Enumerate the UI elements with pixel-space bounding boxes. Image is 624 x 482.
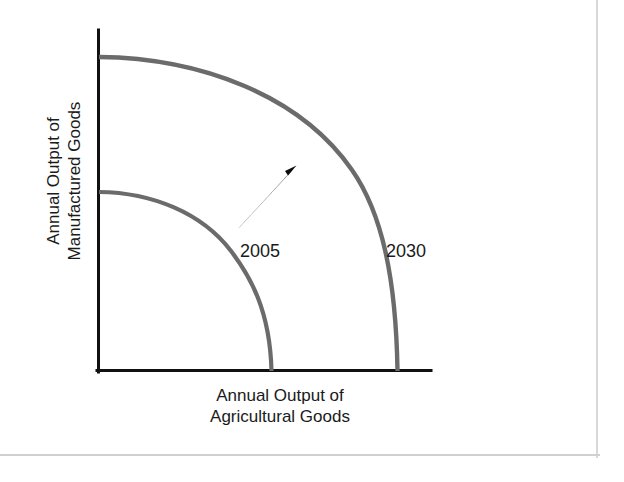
growth-arrow-head <box>285 166 297 176</box>
curve-label-2030: 2030 <box>386 241 426 262</box>
scanned-page-frame: Annual Output of Manufactured Goods Annu… <box>0 0 624 482</box>
y-axis-title-line2: Manufactured Goods <box>64 71 85 291</box>
curve-label-2005: 2005 <box>240 241 280 262</box>
x-axis-title-line2: Agricultural Goods <box>145 406 415 427</box>
growth-arrow-shaft <box>238 168 295 230</box>
x-axis-title-line1: Annual Output of <box>145 385 415 406</box>
growth-arrow <box>238 166 297 230</box>
ppf-figure: Annual Output of Manufactured Goods Annu… <box>0 0 624 482</box>
ppf-curve-2005 <box>99 192 272 371</box>
y-axis-title: Annual Output of Manufactured Goods <box>43 71 85 291</box>
y-axis-title-line1: Annual Output of <box>43 71 64 291</box>
ppf-curve-2030 <box>99 57 398 371</box>
x-axis-title: Annual Output of Agricultural Goods <box>145 385 415 427</box>
